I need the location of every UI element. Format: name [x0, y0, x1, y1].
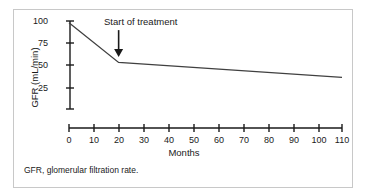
chart-plot-area: GFR (mL/min) 100 75 50 25 0 10 20 30 40 … — [14, 10, 354, 189]
data-series-gfr — [69, 23, 342, 78]
chart-svg — [14, 10, 354, 189]
figure-panel: GFR (mL/min) 100 75 50 25 0 10 20 30 40 … — [13, 9, 353, 188]
start-of-treatment-arrow-icon — [114, 30, 123, 57]
figure-footnote: GFR, glomerular filtration rate. — [24, 165, 138, 175]
